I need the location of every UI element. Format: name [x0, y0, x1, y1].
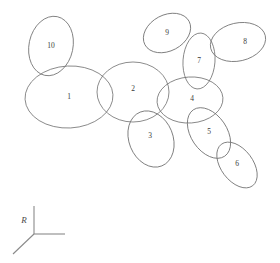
ellipse-label-3: 3 [148, 131, 152, 140]
axis-label-r: R [20, 215, 27, 225]
ellipse-label-8: 8 [243, 37, 247, 46]
ellipse-label-1: 1 [67, 92, 71, 101]
ellipse-diagram-canvas: 1 2 3 4 5 6 7 8 9 10 R [0, 0, 280, 263]
ellipse-label-7: 7 [197, 56, 201, 65]
ellipse-group [23, 5, 269, 195]
ellipse-label-6: 6 [235, 159, 239, 168]
ellipse-label-4: 4 [190, 94, 194, 103]
figure-root: 1 2 3 4 5 6 7 8 9 10 R [0, 0, 280, 263]
ellipse-label-9: 9 [165, 28, 169, 37]
ellipse-label-10: 10 [47, 41, 55, 50]
ellipse-8[interactable] [206, 17, 269, 67]
ellipse-label-group: 1 2 3 4 5 6 7 8 9 10 [47, 28, 247, 168]
ellipse-label-2: 2 [131, 84, 135, 93]
axis-indicator: R [13, 206, 65, 254]
diagonal-axis-arm [13, 234, 34, 254]
ellipse-label-5: 5 [207, 127, 211, 136]
